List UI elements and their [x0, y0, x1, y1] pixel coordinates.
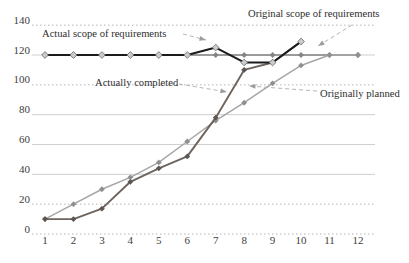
x-axis-tick-label: 3: [99, 234, 105, 246]
data-point-marker: [355, 52, 361, 58]
data-point-marker: [184, 52, 191, 59]
data-point-marker: [241, 59, 248, 66]
x-axis-tick-label: 7: [213, 234, 219, 246]
y-axis-tick-label: 80: [19, 103, 31, 115]
data-point-marker: [127, 52, 134, 59]
burnup-chart-figure: 020406080100120140 123456789101112 Actua…: [0, 0, 409, 263]
x-axis-tick-label: 5: [156, 234, 162, 246]
annotation-arrowhead: [220, 89, 227, 95]
data-point-marker: [327, 52, 333, 58]
data-point-marker: [212, 44, 219, 51]
x-axis-tick-label: 8: [241, 234, 247, 246]
y-axis-tick-label: 100: [14, 73, 31, 85]
annotation-arrowhead: [199, 36, 207, 42]
y-axis-tick-label: 60: [19, 133, 31, 145]
y-axis-tick-label: 20: [19, 193, 31, 205]
data-point-marker: [71, 201, 77, 207]
x-axis-tick-label: 1: [42, 234, 48, 246]
x-axis-tick-label: 11: [324, 234, 335, 246]
data-point-marker: [42, 216, 48, 222]
y-axis-labels: 020406080100120140: [14, 14, 31, 235]
data-point-marker: [70, 52, 77, 59]
data-point-marker: [71, 216, 77, 222]
data-point-marker: [298, 52, 304, 58]
actually-completed-label: Actually completed: [95, 77, 179, 88]
data-point-marker: [241, 52, 247, 58]
data-point-marker: [99, 186, 105, 192]
original-scope-label: Original scope of requirements: [248, 8, 380, 19]
annotations: Actual scope of requirementsOriginal sco…: [42, 8, 400, 99]
series-line: [45, 42, 301, 220]
series-line: [45, 42, 301, 63]
data-point-marker: [42, 52, 49, 59]
annotation-leader-line: [249, 86, 317, 91]
x-axis-labels: 123456789101112: [42, 234, 363, 246]
x-axis-tick-label: 12: [352, 234, 363, 246]
originally-planned-label: Originally planned: [320, 88, 400, 99]
annotation-arrowhead: [317, 41, 325, 48]
y-axis-tick-label: 140: [14, 14, 31, 26]
annotation-leader-line: [179, 84, 227, 92]
data-point-marker: [155, 52, 162, 59]
y-axis-tick-label: 120: [14, 44, 31, 56]
data-point-marker: [270, 52, 276, 58]
data-point-marker: [99, 52, 106, 59]
series-lines: [42, 38, 361, 222]
data-point-marker: [156, 165, 162, 171]
x-axis-tick-label: 6: [185, 234, 191, 246]
x-axis-tick-label: 4: [128, 234, 134, 246]
y-axis-tick-label: 40: [19, 163, 31, 175]
x-axis-tick-label: 10: [296, 234, 308, 246]
y-axis-tick-label: 0: [25, 223, 31, 235]
x-axis-tick-label: 2: [71, 234, 77, 246]
actual-scope-label: Actual scope of requirements: [42, 28, 166, 39]
data-point-marker: [213, 52, 219, 58]
x-axis-tick-label: 9: [270, 234, 276, 246]
requirements-burnup-chart: 020406080100120140 123456789101112 Actua…: [0, 0, 409, 263]
